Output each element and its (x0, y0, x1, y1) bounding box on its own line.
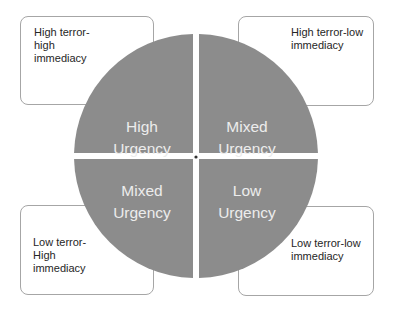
quadrant-label-line1: Mixed (226, 118, 267, 135)
urgency-circle: HighUrgencyMixedUrgencyMixedUrgencyLowUr… (0, 0, 393, 310)
quadrant-label-line1: Low (233, 182, 262, 199)
quadrant-label-line2: Urgency (218, 204, 276, 221)
quadrant-top-left (74, 34, 193, 153)
quadrant-label-line1: High (126, 118, 158, 135)
center-dot (194, 155, 197, 158)
quadrant-top-right (199, 34, 318, 153)
quadrant-label-line2: Urgency (113, 140, 171, 157)
quadrant-label-line2: Urgency (218, 140, 276, 157)
quadrant-label-line2: Urgency (113, 204, 171, 221)
quadrant-label-line1: Mixed (121, 182, 162, 199)
